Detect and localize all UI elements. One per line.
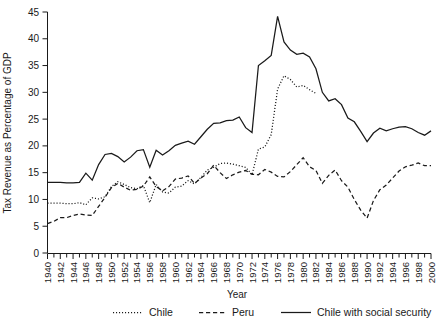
x-tick-label: 1986 [336, 262, 347, 283]
x-tick-label: 1994 [387, 262, 398, 283]
x-tick-label: 1948 [93, 262, 104, 283]
x-tick-label: 1944 [68, 262, 79, 283]
x-tick-label: 1980 [298, 262, 309, 283]
x-tick-label: 1952 [119, 262, 130, 283]
x-tick-label: 1968 [221, 262, 232, 283]
x-tick-label: 1982 [310, 262, 321, 283]
y-tick-label: 35 [28, 60, 40, 71]
x-tick-label: 1998 [413, 262, 424, 283]
y-tick-label: 20 [28, 140, 40, 151]
x-axis-title: Year [227, 289, 248, 300]
x-tick-label: 1990 [362, 262, 373, 283]
y-tick-label: 10 [28, 194, 40, 205]
y-axis-title: Tax Revenue as Percentage of GDP [2, 52, 13, 214]
y-tick-label: 5 [33, 221, 39, 232]
x-tick-label: 1992 [374, 262, 385, 283]
legend-label: Peru [232, 306, 254, 318]
x-tick-label: 1946 [80, 262, 91, 283]
x-tick-label: 1966 [208, 262, 219, 283]
x-tick-label: 2000 [426, 262, 437, 283]
x-tick-label: 1964 [195, 262, 206, 283]
y-tick-label: 15 [28, 167, 40, 178]
x-tick-label: 1954 [131, 262, 142, 283]
x-tick-label: 1984 [323, 262, 334, 283]
tax-revenue-line-chart: 051015202530354045 194019421944194619481… [0, 0, 446, 330]
y-tick-label: 40 [28, 33, 40, 44]
legend-label: Chile with social security [317, 306, 432, 318]
x-tick-label: 1972 [247, 262, 258, 283]
x-tick-label: 1974 [259, 262, 270, 283]
x-tick-label: 1970 [234, 262, 245, 283]
y-tick-label: 0 [33, 248, 39, 259]
x-tick-label: 1978 [285, 262, 296, 283]
legend-label: Chile [149, 306, 173, 318]
x-tick-label: 1960 [170, 262, 181, 283]
x-tick-label: 1956 [144, 262, 155, 283]
x-tick-label: 1950 [106, 262, 117, 283]
x-tick-label: 1976 [272, 262, 283, 283]
y-tick-label: 45 [28, 7, 40, 18]
x-tick-label: 1988 [349, 262, 360, 283]
y-tick-label: 25 [28, 114, 40, 125]
x-tick-label: 1940 [42, 262, 53, 283]
y-tick-label: 30 [28, 87, 40, 98]
x-tick-label: 1958 [157, 262, 168, 283]
x-tick-label: 1962 [183, 262, 194, 283]
x-tick-label: 1996 [400, 262, 411, 283]
x-tick-label: 1942 [55, 262, 66, 283]
